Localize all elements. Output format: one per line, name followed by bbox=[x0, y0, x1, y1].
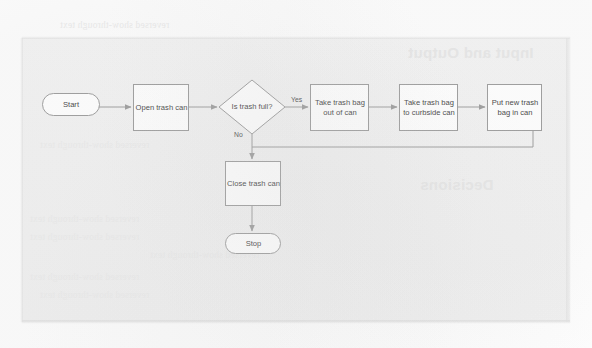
node-take-bag-curbside-label: Take trash bag to curbside can bbox=[400, 85, 458, 130]
node-take-bag-out-label: Take trash bag out of can bbox=[311, 85, 369, 130]
scanned-page: reversed show-through text Input and Out… bbox=[0, 0, 592, 348]
edge-label-yes: Yes bbox=[291, 96, 302, 103]
node-open-trash-can-label: Open trash can bbox=[134, 85, 189, 130]
edge-label-no: No bbox=[234, 131, 243, 138]
connector-feedback-loop bbox=[252, 131, 533, 147]
node-close-trash-can-label: Close trash can bbox=[226, 162, 281, 205]
node-start-label: Start bbox=[42, 93, 100, 116]
node-stop-label: Stop bbox=[226, 233, 281, 254]
node-put-new-bag-label: Put new trash bag in can bbox=[488, 85, 542, 130]
flowchart-diagram bbox=[0, 0, 592, 348]
node-decision-label: Is trash full? bbox=[231, 85, 273, 129]
